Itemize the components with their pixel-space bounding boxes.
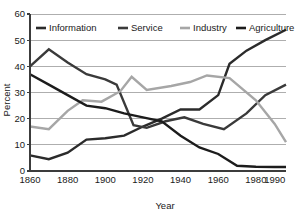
x-tick-label-1920: 1920 <box>132 174 153 185</box>
series-lines <box>30 30 286 167</box>
y-tick-label-10: 10 <box>14 139 25 150</box>
x-tick-label-1900: 1900 <box>95 174 116 185</box>
x-axis-title: Year <box>155 200 174 211</box>
x-axis-tick-labels: 18601880190019201940196019801990 <box>19 174 285 185</box>
y-tick-label-60: 60 <box>14 8 25 19</box>
x-tick-label-1880: 1880 <box>57 174 78 185</box>
line-chart: 0102030405060 18601880190019201940196019… <box>0 0 295 214</box>
x-tick-label-1990: 1990 <box>264 174 285 185</box>
x-tick-label-1860: 1860 <box>19 174 40 185</box>
x-tick-label-1940: 1940 <box>170 174 191 185</box>
legend-label-agriculture: Agriculture <box>249 22 294 33</box>
y-axis-title: Percent <box>1 83 12 116</box>
legend-label-information: Information <box>49 22 97 33</box>
y-tick-label-40: 40 <box>14 61 25 72</box>
legend-label-service: Service <box>131 22 163 33</box>
chart-canvas: 0102030405060 18601880190019201940196019… <box>0 0 295 214</box>
chart-legend: InformationServiceIndustryAgriculture <box>36 22 294 33</box>
y-tick-label-50: 50 <box>14 35 25 46</box>
legend-label-industry: Industry <box>193 22 227 33</box>
y-tick-label-20: 20 <box>14 113 25 124</box>
x-tick-label-1960: 1960 <box>208 174 229 185</box>
y-tick-label-30: 30 <box>14 87 25 98</box>
series-line-industry <box>30 75 286 142</box>
y-axis-tick-labels: 0102030405060 <box>14 8 25 176</box>
